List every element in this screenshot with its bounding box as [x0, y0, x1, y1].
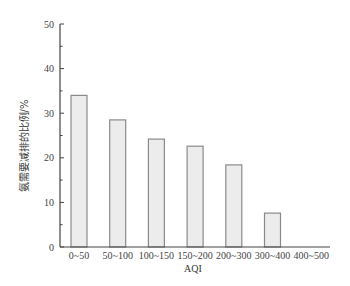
y-axis-title: 氨需要减排的比例/%	[18, 100, 30, 193]
bar-chart: 01020304050 0~5050~100100~150150~200200~…	[0, 0, 350, 286]
y-tick-label: 10	[44, 197, 54, 208]
x-tick-label: 300~400	[255, 250, 290, 261]
bar-150~200	[187, 146, 203, 247]
bar-200~300	[226, 165, 242, 247]
bars-group	[71, 95, 281, 247]
bar-300~400	[265, 213, 281, 247]
bar-0~50	[71, 95, 87, 247]
y-tick-label: 50	[44, 19, 54, 30]
x-tick-label: 150~200	[177, 250, 212, 261]
y-tick-label: 20	[44, 152, 54, 163]
x-tick-label: 200~300	[216, 250, 251, 261]
bar-50~100	[110, 120, 126, 247]
x-tick-label: 100~150	[139, 250, 174, 261]
y-tick-label: 30	[44, 108, 54, 119]
bar-100~150	[148, 139, 164, 247]
x-tick-label: 400~500	[293, 250, 328, 261]
y-axis: 01020304050	[44, 19, 64, 253]
x-tick-label: 50~100	[102, 250, 132, 261]
x-tick-label: 0~50	[69, 250, 89, 261]
x-axis: 0~5050~100100~150150~200200~300300~40040…	[60, 247, 330, 261]
y-tick-label: 40	[44, 63, 54, 74]
x-axis-title: AQI	[184, 263, 202, 274]
y-tick-label: 0	[49, 242, 54, 253]
